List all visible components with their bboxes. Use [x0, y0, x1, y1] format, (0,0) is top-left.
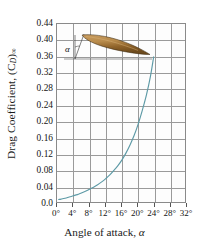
x-tick-mark [89, 203, 90, 207]
x-tick-mark [154, 203, 155, 207]
x-tick-label: 0° [52, 208, 60, 218]
airfoil-body [82, 35, 150, 55]
x-axis-title-symbol: α [139, 226, 145, 238]
chart-figure: Drag Coefficient, (CD)∞ 0.440.400.360.32… [0, 0, 209, 250]
y-tick-label: 0.08 [19, 165, 53, 175]
y-tick-label: 0.32 [19, 67, 53, 77]
y-tick-label: 0.20 [19, 116, 53, 126]
y-tick-label: 0.40 [19, 34, 53, 44]
y-tick-label: 0.36 [19, 51, 53, 61]
y-tick-label: 0.44 [19, 18, 53, 28]
y-axis-title-subscript-d: D [9, 58, 18, 64]
airfoil-icon [60, 26, 156, 66]
x-tick-mark [105, 203, 106, 207]
x-tick-mark [56, 203, 57, 207]
alpha-inset-label: α [65, 44, 70, 54]
x-tick-label: 20° [131, 208, 144, 218]
y-tick-label: 0.0 [19, 198, 53, 208]
x-axis-tick-labels: 0°4°8°12°16°20°24°28°32° [56, 203, 186, 221]
y-axis-title-paren: ) [4, 54, 16, 58]
x-tick-mark [186, 203, 187, 207]
x-tick-mark [137, 203, 138, 207]
x-tick-label: 12° [98, 208, 111, 218]
y-tick-label: 0.16 [19, 133, 53, 143]
y-axis-tick-labels: 0.440.400.360.320.280.240.200.160.120.08… [19, 0, 53, 210]
x-tick-mark [170, 203, 171, 207]
y-tick-label: 0.24 [19, 100, 53, 110]
x-tick-label: 16° [115, 208, 128, 218]
x-tick-mark [121, 203, 122, 207]
x-tick-mark [72, 203, 73, 207]
y-tick-label: 0.12 [19, 149, 53, 159]
x-tick-label: 24° [147, 208, 160, 218]
x-axis-title-main: Angle of attack, [64, 226, 139, 238]
x-tick-label: 8° [84, 208, 92, 218]
alpha-arc [75, 46, 80, 47]
airfoil-inset: α [60, 26, 156, 66]
y-tick-label: 0.28 [19, 83, 53, 93]
x-tick-label: 32° [180, 208, 193, 218]
y-axis-title-main: Drag Coefficient, (C [4, 64, 16, 160]
plot-area: α [56, 23, 186, 203]
y-tick-label: 0.04 [19, 182, 53, 192]
x-tick-label: 4° [68, 208, 76, 218]
x-axis-title: Angle of attack, α [0, 226, 209, 238]
x-tick-label: 28° [163, 208, 176, 218]
y-axis-title-subscript-infinity: ∞ [9, 49, 18, 55]
curve-path [59, 57, 154, 200]
